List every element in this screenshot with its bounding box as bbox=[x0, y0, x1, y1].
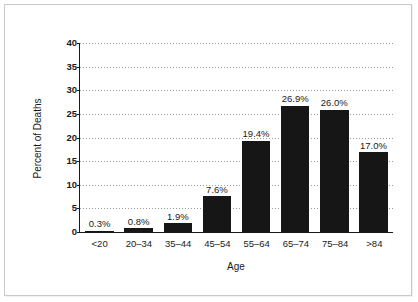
chart-figure: Percent of Deaths 0510152025303540 0.3%0… bbox=[4, 4, 412, 296]
x-tick-label: 20–34 bbox=[119, 239, 158, 249]
bar-value-label: 19.4% bbox=[243, 129, 270, 139]
bar-slot: 19.4% bbox=[237, 44, 276, 232]
plot-area: 0510152025303540 0.3%0.8%1.9%7.6%19.4%26… bbox=[79, 44, 393, 233]
x-axis-title: Age bbox=[79, 261, 393, 272]
gridline: 0 bbox=[80, 232, 393, 233]
bar[interactable]: 0.3% bbox=[85, 231, 114, 232]
y-tick-label: 10 bbox=[66, 180, 77, 190]
bar-slot: 26.9% bbox=[276, 44, 315, 232]
x-tick-label: 75–84 bbox=[316, 239, 355, 249]
x-tick-label: 45–54 bbox=[198, 239, 237, 249]
bar-slot: 1.9% bbox=[158, 44, 197, 232]
x-tick-label: 35–44 bbox=[159, 239, 198, 249]
bar-slot: 0.3% bbox=[80, 44, 119, 232]
bar-value-label: 0.3% bbox=[89, 219, 111, 229]
bar-value-label: 26.0% bbox=[321, 98, 348, 108]
x-tick-label: <20 bbox=[80, 239, 119, 249]
y-tick-label: 25 bbox=[66, 109, 77, 119]
y-tick-label: 30 bbox=[66, 86, 77, 96]
bar[interactable]: 7.6% bbox=[203, 196, 232, 232]
bar-value-label: 7.6% bbox=[206, 185, 228, 195]
bar-slot: 17.0% bbox=[354, 44, 393, 232]
y-tick-label: 15 bbox=[66, 156, 77, 166]
x-tick-label: 65–74 bbox=[276, 239, 315, 249]
bar-value-label: 1.9% bbox=[167, 212, 189, 222]
bar-value-label: 26.9% bbox=[282, 94, 309, 104]
y-tick-label: 5 bbox=[72, 204, 77, 214]
bar[interactable]: 26.0% bbox=[320, 110, 349, 232]
y-tick-label: 20 bbox=[66, 133, 77, 143]
bar-slot: 7.6% bbox=[197, 44, 236, 232]
bar[interactable]: 26.9% bbox=[281, 106, 310, 232]
bar[interactable]: 1.9% bbox=[164, 223, 193, 232]
bar-series: 0.3%0.8%1.9%7.6%19.4%26.9%26.0%17.0% bbox=[80, 44, 393, 232]
bar-slot: 0.8% bbox=[119, 44, 158, 232]
bar[interactable]: 0.8% bbox=[124, 228, 153, 232]
y-axis-title-text: Percent of Deaths bbox=[32, 98, 43, 178]
x-tick-label: >84 bbox=[355, 239, 394, 249]
bar-value-label: 17.0% bbox=[360, 141, 387, 151]
bar-slot: 26.0% bbox=[315, 44, 354, 232]
y-tick-label: 40 bbox=[66, 38, 77, 48]
y-tick-mark bbox=[77, 232, 80, 233]
y-tick-label: 0 bbox=[72, 227, 77, 237]
y-axis-title: Percent of Deaths bbox=[30, 44, 44, 233]
y-tick-label: 35 bbox=[66, 62, 77, 72]
bar[interactable]: 19.4% bbox=[242, 141, 271, 232]
bar[interactable]: 17.0% bbox=[359, 152, 388, 232]
x-tick-label: 55–64 bbox=[237, 239, 276, 249]
x-axis-tick-labels: <2020–3435–4445–5455–6465–7475–84>84 bbox=[80, 239, 394, 249]
bar-value-label: 0.8% bbox=[128, 217, 150, 227]
